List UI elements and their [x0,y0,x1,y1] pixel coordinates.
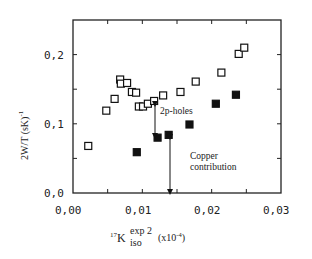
x-axis-title: 17K exp 2 iso (x10-4) [110,225,185,248]
x-tick-label: 0,00 [55,204,82,217]
filled-square-marker [186,121,193,128]
open-square-marker [133,89,140,96]
open-square-marker [160,92,167,99]
open-square-marker [151,97,158,104]
y-tick-label: 0,0 [44,187,64,200]
svg-text:2W/T (sK)-1: 2W/T (sK)-1 [17,110,31,160]
x-tick-label: 0,02 [194,204,221,217]
y-axis-title: 2W/T (sK)-1 [17,110,31,160]
open-square-marker [103,107,110,114]
svg-text:(x10-4): (x10-4) [158,231,185,244]
annotation-copper-line1: Copper [190,151,219,161]
open-square-marker [124,79,131,86]
scatter-chart: 2p-holes Copper contribution 0,2 0,1 0,0… [0,0,312,259]
y-tick-label: 0,2 [44,49,64,62]
open-square-marker [111,95,118,102]
filled-square-marker [232,91,239,98]
open-square-marker [85,142,92,149]
annotation-2p-holes: 2p-holes [160,106,193,116]
x-tick-label: 0,03 [263,204,290,217]
svg-text:17K: 17K [110,231,126,245]
filled-square-marker [133,149,140,156]
filled-square-marker [165,131,172,138]
filled-square-marker [212,100,219,107]
annotation-copper-line2: contribution [190,162,237,172]
open-square-marker [241,44,248,51]
x-tick-label: 0,01 [125,204,152,217]
y-tick-label: 0,1 [44,118,64,131]
open-square-marker [218,69,225,76]
open-square-marker [192,78,199,85]
svg-text:exp 2: exp 2 [130,225,152,236]
open-square-marker [177,88,184,95]
svg-text:iso: iso [130,237,142,248]
data-points [85,44,248,155]
